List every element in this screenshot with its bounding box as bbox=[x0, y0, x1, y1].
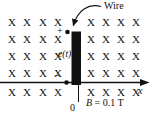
conducting-bar bbox=[72, 32, 82, 86]
field-symbol-b: B bbox=[86, 97, 92, 108]
field-value: = 0.1 T bbox=[95, 97, 124, 108]
wire-label: Wire bbox=[104, 0, 124, 11]
plus-terminal-label: + bbox=[57, 25, 63, 36]
origin-label: 0 bbox=[70, 102, 75, 113]
field-diagram: XXXXXXXXXXXXXXXXXXXX XXXXXXXXXXXXXXXXXXX… bbox=[0, 0, 154, 120]
terminal-dot-bottom bbox=[64, 80, 69, 85]
field-strength-label: B = 0.1 T bbox=[86, 97, 124, 108]
minus-terminal-label: − bbox=[54, 69, 60, 81]
x-axis-label: x bbox=[138, 85, 142, 96]
emf-label: e(t) bbox=[58, 49, 71, 59]
terminal-dot-top bbox=[65, 30, 70, 35]
diagram-graphics bbox=[0, 0, 154, 120]
wire-pointer-arrow bbox=[74, 6, 102, 25]
